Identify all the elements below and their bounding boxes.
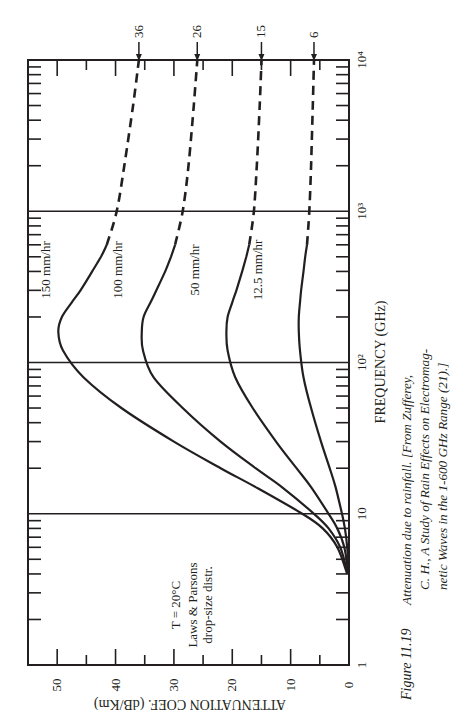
figure-caption: Figure 11.19 Attenuation due to rainfall… <box>399 349 450 701</box>
end-value-labels: 3626156 <box>131 25 321 62</box>
curve-12-5-mmhr-dashed <box>307 60 314 245</box>
curve-100-mmhr-dashed <box>175 60 197 245</box>
attenuation-tick-label: 30 <box>166 679 181 692</box>
curve-label-100-mmhr: 100 mm/hr <box>110 241 125 299</box>
end-value-label: 15 <box>253 25 268 38</box>
curve-150-mmhr-solid <box>58 245 347 574</box>
conditions-annotation: T = 20°C Laws & Parsons drop-size distr. <box>168 562 215 647</box>
figure-number: Figure 11.19 <box>399 628 414 701</box>
frequency-tick-label: 10³ <box>354 203 369 220</box>
end-value-label: 36 <box>131 25 146 39</box>
attenuation-tick-label: 0 <box>341 682 356 689</box>
frequency-tick-label: 1 <box>354 662 369 669</box>
annotation-line-3: drop-size distr. <box>200 566 215 643</box>
annotation-line-1: T = 20°C <box>168 581 183 629</box>
frequency-tick-label: 10 <box>354 507 369 520</box>
curve-50-mmhr-solid <box>226 245 348 574</box>
attenuation-axis-title: ATTENUATION COEF. (dB/Km) <box>94 696 286 712</box>
attenuation-tick-label: 20 <box>224 679 239 692</box>
curves <box>58 60 348 574</box>
curve-labels: 150 mm/hr100 mm/hr50 mm/hr12.5 mm/hr <box>38 239 265 300</box>
curve-150-mmhr-dashed <box>107 60 139 245</box>
frequency-tick-label: 10⁴ <box>354 51 369 69</box>
curve-label-12-5-mmhr: 12.5 mm/hr <box>250 239 265 300</box>
curve-label-50-mmhr: 50 mm/hr <box>187 244 202 296</box>
end-value-label: 26 <box>189 25 204 39</box>
end-value-label: 6 <box>306 31 321 38</box>
attenuation-tick-label: 10 <box>283 679 298 692</box>
caption-line-2: C. H., A Study of Rain Effects on Electr… <box>417 349 432 590</box>
frequency-tick-label: 10² <box>354 354 369 371</box>
frequency-axis-title: FREQUENCY (GHz) <box>373 300 389 423</box>
attenuation-tick-label: 50 <box>49 679 64 692</box>
curve-50-mmhr-dashed <box>249 60 261 245</box>
caption-line-3: netic Waves in the 1-600 GHz Range (21).… <box>435 363 450 590</box>
curve-12-5-mmhr-solid <box>299 245 349 574</box>
caption-line-1: Attenuation due to rainfall. [From Zuffe… <box>399 375 414 606</box>
rain-attenuation-chart: 11010²10³10⁴ 01020304050 150 mm/hr100 mm… <box>0 0 461 715</box>
curve-label-150-mmhr: 150 mm/hr <box>38 241 53 299</box>
attenuation-tick-label: 40 <box>108 679 123 692</box>
annotation-line-2: Laws & Parsons <box>185 562 200 647</box>
